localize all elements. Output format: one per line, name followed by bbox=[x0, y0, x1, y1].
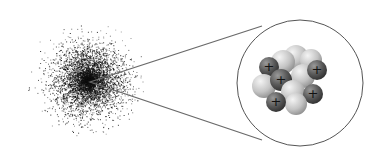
plus-icon: + bbox=[264, 59, 275, 74]
zoom-lines bbox=[90, 26, 262, 140]
plus-icon: + bbox=[308, 86, 319, 101]
electron-cloud bbox=[28, 26, 144, 137]
plus-icon: + bbox=[271, 94, 282, 109]
proton: + bbox=[307, 60, 327, 80]
plus-icon: + bbox=[312, 62, 323, 77]
diagram-canvas: +++++ bbox=[0, 0, 371, 160]
proton: + bbox=[266, 92, 286, 112]
neutron bbox=[285, 93, 307, 115]
